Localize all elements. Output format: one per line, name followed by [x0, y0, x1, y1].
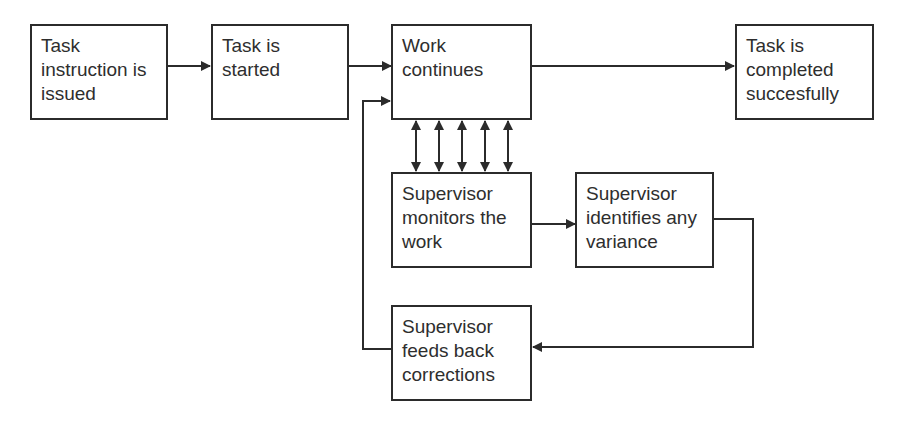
arrow-feedback-to-work [363, 101, 392, 349]
box-text-line: Work [402, 34, 530, 58]
box-text-line: Supervisor [402, 182, 530, 206]
box-task-completed: Task is completed succesfully [735, 24, 874, 120]
box-text-line: monitors the [402, 206, 530, 230]
box-text-line: Task [41, 34, 166, 58]
box-text-line: Supervisor [586, 182, 712, 206]
box-supervisor-identifies: Supervisor identifies any variance [575, 172, 714, 268]
box-supervisor-monitors: Supervisor monitors the work [391, 172, 532, 268]
box-text-line: issued [41, 82, 166, 106]
box-text-line: identifies any [586, 206, 712, 230]
box-text-line: corrections [402, 363, 530, 387]
box-text-line: started [222, 58, 347, 82]
box-supervisor-feeds-back: Supervisor feeds back corrections [391, 305, 532, 401]
box-text-line: Task is [746, 34, 872, 58]
box-text-line: feeds back [402, 339, 530, 363]
box-task-started: Task is started [211, 24, 349, 120]
box-text-line: completed [746, 58, 872, 82]
box-text-line: work [402, 230, 530, 254]
flow-diagram: Task instruction is issued Task is start… [0, 0, 906, 424]
box-text-line: succesfully [746, 82, 872, 106]
box-task-issued: Task instruction is issued [30, 24, 168, 120]
box-text-line: variance [586, 230, 712, 254]
box-text-line: continues [402, 58, 530, 82]
box-work-continues: Work continues [391, 24, 532, 120]
box-text-line: instruction is [41, 58, 166, 82]
box-text-line: Supervisor [402, 315, 530, 339]
box-text-line: Task is [222, 34, 347, 58]
